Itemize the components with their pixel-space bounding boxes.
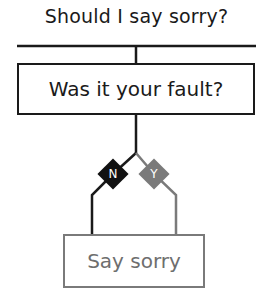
no-branch-diamond: N: [102, 163, 124, 185]
answer-box: Say sorry: [63, 234, 205, 288]
question-label: Was it your fault?: [49, 77, 224, 101]
yes-branch-diamond: Y: [143, 163, 165, 185]
no-label: N: [109, 167, 118, 181]
question-box: Was it your fault?: [17, 63, 255, 115]
answer-label: Say sorry: [87, 249, 181, 273]
yes-label: Y: [150, 167, 157, 181]
